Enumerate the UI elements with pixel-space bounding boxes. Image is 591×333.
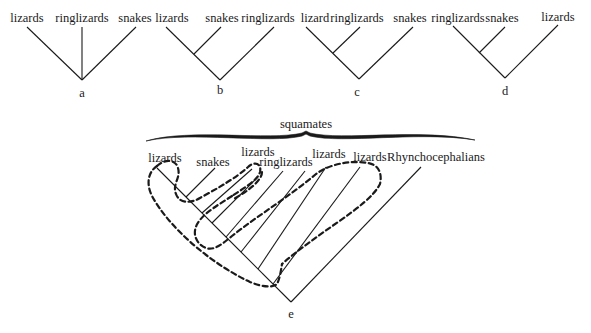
tree-a-taxon-1: lizards — [10, 11, 43, 25]
tree-d-taxon-2: snakes — [485, 11, 518, 25]
tree-a: lizards ringlizards snakes a — [10, 11, 151, 100]
tree-e-taxon-2: snakes — [196, 155, 229, 169]
tree-d-branch — [453, 26, 505, 78]
tree-b-branch — [166, 27, 220, 80]
tree-e-branch-lizards — [273, 167, 360, 284]
tree-e-branch-snakes — [186, 168, 215, 197]
tree-a-taxon-3: snakes — [118, 11, 151, 25]
tree-a-branch — [27, 27, 82, 80]
tree-a-sublabel: a — [79, 86, 85, 100]
tree-c-branch — [333, 27, 360, 53]
tree-b-taxon-1: lizards — [155, 11, 188, 25]
tree-e-taxon-6: lizards — [353, 150, 386, 164]
tree-c-taxon-3: snakes — [393, 11, 426, 25]
tree-c-taxon-2: ringlizards — [330, 11, 384, 25]
tree-e-spine — [157, 168, 291, 302]
tree-b-branch — [194, 27, 221, 54]
tree-e: squamates lizards snakes lizards ringliz… — [146, 117, 485, 321]
tree-d: ringlizards snakes lizards d — [431, 10, 575, 98]
tree-c: lizard ringlizards snakes c — [301, 11, 427, 99]
tree-e-taxon-5: lizards — [312, 147, 345, 161]
tree-d-branch — [505, 25, 558, 78]
tree-b-sublabel: b — [217, 83, 223, 97]
tree-e-taxon-4: ringlizards — [259, 155, 313, 169]
tree-b: lizards snakes ringlizards b — [155, 11, 295, 97]
tree-a-branch — [82, 27, 136, 80]
tree-b-branch — [220, 27, 274, 80]
squamates-brace — [146, 131, 475, 141]
tree-e-taxon-7: Rhynchocephalians — [387, 150, 485, 164]
tree-d-sublabel: d — [502, 84, 509, 98]
tree-c-branch — [306, 27, 359, 79]
tree-d-taxon-3: lizards — [541, 10, 574, 24]
tree-b-taxon-3: ringlizards — [241, 11, 295, 25]
cladogram-figure: lizards ringlizards snakes a lizards sna… — [0, 0, 591, 333]
tree-d-branch — [479, 27, 505, 53]
squamates-label: squamates — [280, 117, 332, 131]
tree-a-taxon-2: ringlizards — [55, 11, 109, 25]
tree-c-sublabel: c — [354, 85, 360, 99]
tree-c-branch — [359, 27, 413, 79]
tree-e-taxon-1: lizards — [148, 151, 181, 165]
tree-c-taxon-1: lizard — [301, 11, 330, 25]
tree-e-branch-rhynchocephalians — [291, 167, 421, 302]
tree-d-taxon-1: ringlizards — [431, 11, 485, 25]
tree-e-sublabel: e — [288, 307, 294, 321]
tree-b-taxon-2: snakes — [205, 11, 238, 25]
